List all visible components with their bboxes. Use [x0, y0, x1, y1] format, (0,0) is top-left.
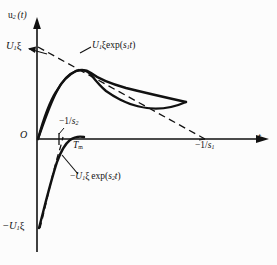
leader-upper-annotation [80, 47, 91, 53]
x-tick-label-minus-1-over-s2: −1/s2 [59, 117, 78, 127]
leader-minus-1-over-s2 [59, 128, 64, 134]
response-curve-upper-main [38, 70, 186, 139]
y-axis-label: u2 (t) [8, 11, 27, 21]
upper-envelope-annotation: U1ξexp(s1t) [92, 41, 135, 51]
origin-label: O [20, 130, 27, 140]
x-tick-label-minus-1-over-s1: −1/s1 [195, 141, 214, 151]
exponential-response-chart: u2 (t) U1ξ −U1ξ O t −1/s2 −1/s1 Tm U1ξex… [0, 0, 277, 265]
peak-time-label: Tm [73, 141, 83, 151]
chart-canvas [0, 0, 277, 265]
lower-envelope-annotation: −U1ξ exp(s2t) [70, 172, 121, 182]
axis-group [33, 17, 269, 252]
response-curve-upper [38, 70, 186, 139]
y-top-tick-label: U1ξ [6, 41, 22, 52]
y-bottom-tick-label: −U1ξ [3, 221, 24, 232]
x-axis-label: t [258, 132, 261, 142]
y-axis-arrowhead [33, 17, 41, 29]
